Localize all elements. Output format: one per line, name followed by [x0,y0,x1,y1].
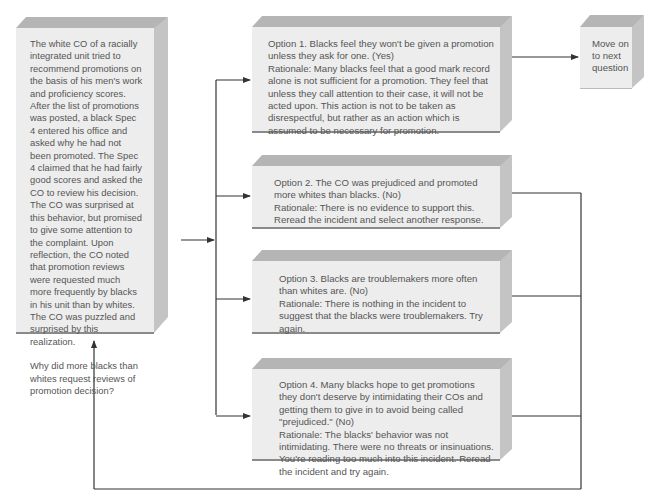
box-side-face [632,15,644,89]
option-2-rationale: Rationale: There is no evidence to suppo… [274,202,494,227]
scenario-box: The white CO of a racially integrated un… [16,17,168,334]
option-box-4[interactable]: Option 4. Many blacks hope to get promot… [252,358,512,461]
option-1-rationale: Rationale: Many blacks feel that a good … [268,63,494,137]
box-top-face [252,155,512,166]
option-2-label: Option 2. The CO was prejudiced and prom… [274,177,494,202]
scenario-text: The white CO of a racially integrated un… [30,38,144,348]
option-box-2[interactable]: Option 2. The CO was prejudiced and prom… [252,155,512,229]
box-top-face [252,358,512,369]
option-box-1[interactable]: Option 1. Blacks feel they won't be give… [252,16,512,133]
box-side-face [500,358,512,461]
box-side-face [500,250,512,334]
box-top-face [252,250,512,261]
option-4-rationale: Rationale: The blacks' behavior was not … [279,429,494,479]
box-side-face [500,155,512,229]
next-question-text: Move on to next question [592,38,630,74]
box-top-face [16,17,168,28]
option-4-label: Option 4. Many blacks hope to get promot… [279,379,494,429]
box-side-face [154,17,168,334]
box-side-face [500,16,512,133]
next-question-box[interactable]: Move on to next question [580,15,644,89]
scenario-question: Why did more blacks than whites request … [30,360,144,397]
option-3-label: Option 3. Blacks are troublemakers more … [279,273,494,298]
box-top-face [252,16,512,27]
option-3-rationale: Rationale: There is nothing in the incid… [279,298,494,335]
option-box-3[interactable]: Option 3. Blacks are troublemakers more … [252,250,512,334]
option-1-label: Option 1. Blacks feel they won't be give… [268,38,494,63]
